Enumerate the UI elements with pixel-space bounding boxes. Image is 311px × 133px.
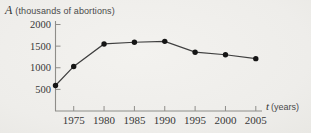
x-tick-label: 2005: [245, 114, 268, 126]
y-tick-label: 1500: [30, 41, 51, 52]
data-point-marker: [53, 83, 58, 88]
data-point-marker: [192, 49, 197, 54]
x-variable-symbol: t: [266, 100, 269, 112]
data-point-marker: [162, 39, 167, 44]
x-tick-label: 1990: [154, 114, 177, 126]
data-point-marker: [101, 41, 106, 46]
chart-svg: 5001000150020001975198019851990199520002…: [0, 0, 311, 133]
x-tick-label: 1975: [63, 114, 86, 126]
x-tick-label: 1985: [123, 114, 146, 126]
abortion-line-chart-figure: A (thousands of abortions) 5001000150020…: [0, 0, 311, 133]
data-point-marker: [71, 64, 76, 69]
y-tick-label: 1000: [30, 62, 51, 73]
x-tick-label: 1980: [93, 114, 116, 126]
x-tick-label: 2000: [214, 114, 237, 126]
x-axis-unit-label: (years): [271, 102, 299, 112]
data-point-marker: [253, 56, 258, 61]
y-tick-label: 2000: [30, 19, 51, 30]
x-tick-label: 1995: [184, 114, 207, 126]
y-tick-label: 500: [35, 84, 51, 95]
data-point-marker: [132, 40, 137, 45]
data-point-marker: [223, 52, 228, 57]
data-line: [56, 41, 256, 85]
axes-lines: [56, 21, 263, 111]
x-axis-label: t (years): [266, 100, 299, 112]
